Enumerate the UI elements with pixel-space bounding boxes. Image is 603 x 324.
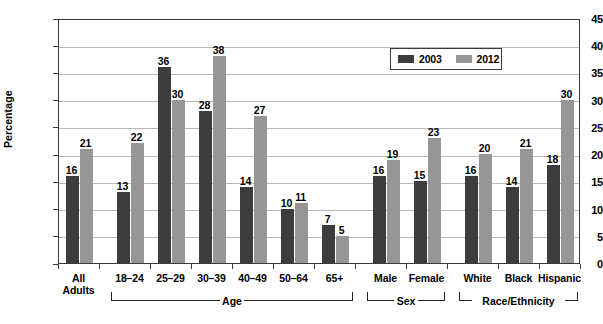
bar-value-label: 28: [192, 99, 218, 111]
bar-value-label: 22: [124, 131, 150, 143]
bar-2003-50-64: [281, 209, 295, 263]
legend-swatch-2012-icon: [456, 55, 472, 63]
gridline: [59, 74, 579, 75]
bar-value-label: 27: [247, 104, 273, 116]
bar-2003-White: [465, 176, 479, 263]
bar-2012-30-39: [213, 56, 227, 263]
bar-value-label: 11: [288, 191, 314, 203]
x-tick-mark: [273, 264, 274, 269]
legend: 2003 2012: [390, 48, 502, 70]
bar-value-label: 20: [472, 142, 498, 154]
y-axis-title: Percentage: [2, 90, 14, 148]
bar-2003-Male: [373, 176, 387, 263]
x-tick-mark: [58, 264, 59, 269]
legend-label-2003: 2003: [419, 53, 442, 65]
bar-2003-Female: [414, 181, 428, 263]
chart-container: Percentage 051015202530354045 1621132236…: [0, 0, 603, 324]
group-bracket-label: Sex: [367, 295, 445, 307]
gridline: [59, 128, 579, 129]
bar-2012-65+: [336, 236, 350, 263]
bar-value-label: 16: [366, 164, 392, 176]
x-tick-mark: [539, 264, 540, 269]
bar-2012-Black: [520, 149, 534, 263]
bar-2003-Black: [506, 187, 520, 263]
x-tick-mark: [406, 264, 407, 269]
bar-value-label: 14: [499, 175, 525, 187]
bar-value-label: 13: [110, 180, 136, 192]
x-tick-mark: [314, 264, 315, 269]
x-tick-mark: [232, 264, 233, 269]
bar-value-label: 16: [458, 164, 484, 176]
bar-2003-18-24: [117, 192, 131, 263]
bar-value-label: 18: [540, 153, 566, 165]
bar-2012-40-49: [254, 116, 268, 263]
bar-value-label: 21: [513, 137, 539, 149]
legend-item-2003: 2003: [398, 53, 442, 65]
bar-2012-50-64: [295, 203, 309, 263]
bar-value-label: 30: [554, 88, 580, 100]
x-tick-mark: [191, 264, 192, 269]
bar-2012-25-29: [172, 100, 186, 263]
bar-2003-30-39: [199, 111, 213, 263]
bar-2003-All-Adults: [66, 176, 80, 263]
x-tick-mark: [447, 264, 448, 269]
group-bracket-label: Age: [111, 295, 353, 307]
bar-2003-Hispanic: [547, 165, 561, 263]
bar-2003-40-49: [240, 187, 254, 263]
bar-value-label: 19: [380, 148, 406, 160]
gridline: [59, 101, 579, 102]
bar-value-label: 38: [206, 44, 232, 56]
legend-label-2012: 2012: [477, 53, 500, 65]
bar-2012-18-24: [131, 143, 145, 263]
group-bracket-label: Race/Ethnicity: [459, 295, 578, 307]
bar-2012-Female: [428, 138, 442, 263]
x-tick-mark: [150, 264, 151, 269]
legend-swatch-2003-icon: [398, 55, 414, 63]
bar-value-label: 36: [151, 55, 177, 67]
bar-2012-Hispanic: [561, 100, 575, 263]
bar-value-label: 15: [407, 169, 433, 181]
bar-value-label: 14: [233, 175, 259, 187]
x-tick-mark: [580, 264, 581, 269]
x-tick-mark: [355, 264, 356, 269]
x-tick-mark: [498, 264, 499, 269]
bar-value-label: 30: [165, 88, 191, 100]
bar-value-label: 16: [59, 164, 85, 176]
bar-value-label: 21: [73, 137, 99, 149]
x-tick-mark: [99, 264, 100, 269]
category-label-Hispanic: Hispanic: [528, 272, 592, 284]
bar-value-label: 23: [421, 126, 447, 138]
legend-item-2012: 2012: [456, 53, 500, 65]
bar-value-label: 5: [329, 224, 355, 236]
